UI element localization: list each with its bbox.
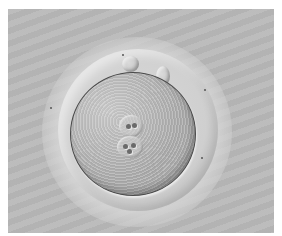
granule (122, 54, 124, 56)
ooplasm (70, 72, 196, 196)
pronucleus-1 (119, 115, 143, 137)
micrograph-frame (8, 9, 274, 233)
pronucleus-2 (117, 136, 143, 158)
nucleolus (127, 149, 132, 154)
debris (50, 107, 52, 109)
nucleolus (126, 124, 131, 129)
debris (201, 157, 203, 159)
nucleolus (123, 144, 128, 149)
debris (204, 89, 206, 91)
nucleolus (131, 143, 136, 148)
nucleolus (132, 123, 137, 128)
polar-body-1 (122, 56, 139, 72)
